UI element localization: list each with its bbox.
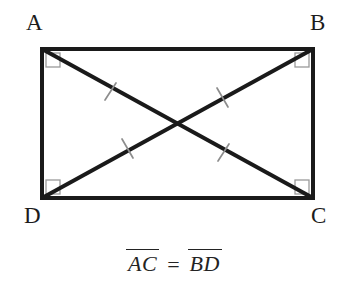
vertex-label-A: A	[26, 11, 43, 34]
equals-operator: =	[160, 253, 186, 277]
segment-AC: AC	[126, 249, 159, 276]
vertex-label-C: C	[311, 204, 326, 227]
vertex-label-B: B	[310, 11, 325, 34]
geometry-figure: A B C D AC=BD	[0, 0, 348, 303]
diagonals	[42, 49, 313, 198]
segment-BD: BD	[188, 249, 222, 276]
vertex-label-D: D	[24, 204, 41, 227]
equation-caption: AC=BD	[0, 249, 348, 276]
